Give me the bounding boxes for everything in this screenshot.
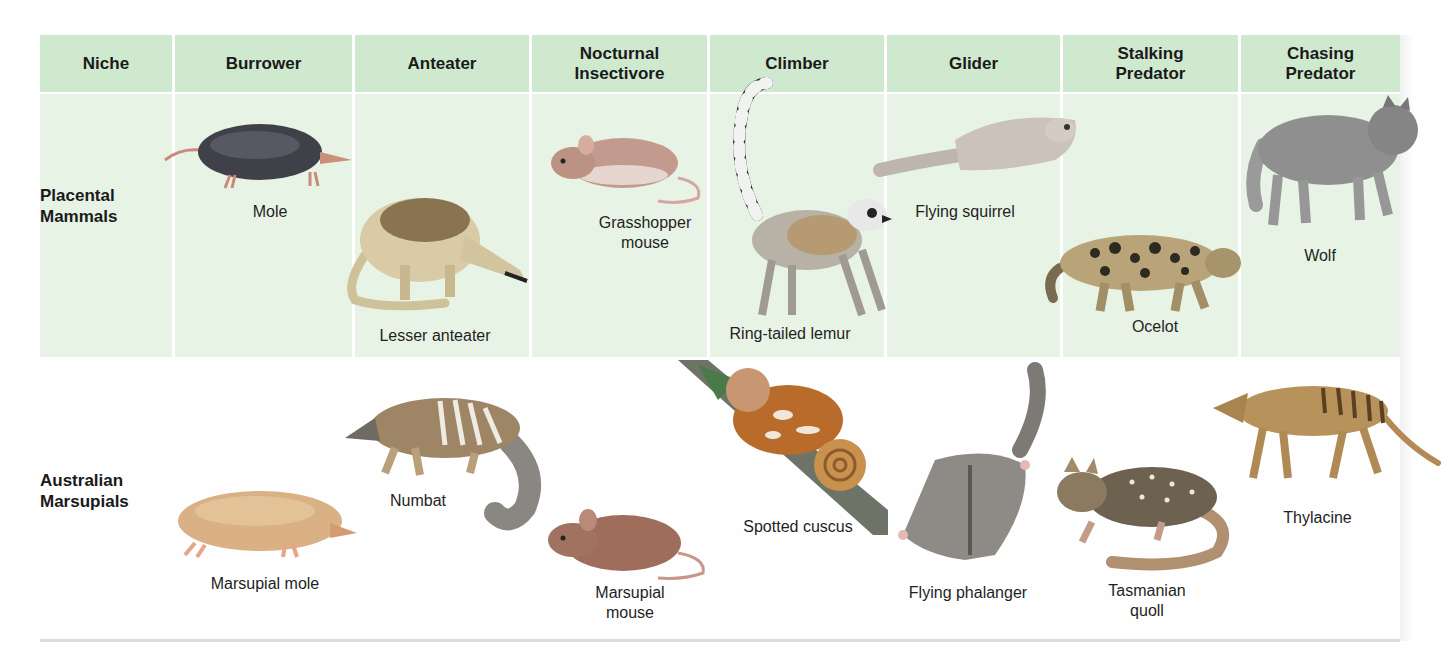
header-anteater: Anteater — [355, 35, 529, 92]
label-flying-phalanger: Flying phalanger — [898, 583, 1038, 603]
thylacine-illustration — [1203, 373, 1443, 483]
row-label-placental-text: Placental Mammals — [40, 185, 150, 227]
label-tasmanian-quoll: Tasmanian quoll — [1092, 581, 1202, 621]
label-wolf: Wolf — [1285, 246, 1355, 266]
header-burrower: Burrower — [175, 35, 352, 92]
label-ring-tailed-lemur: Ring-tailed lemur — [710, 324, 870, 344]
label-marsupial-mouse: Marsupial mouse — [585, 583, 675, 623]
mole-illustration — [160, 120, 360, 195]
label-mole: Mole — [230, 202, 310, 222]
label-flying-squirrel: Flying squirrel — [900, 202, 1030, 222]
label-numbat: Numbat — [390, 491, 446, 511]
row-label-marsupial-text: Australian Marsupials — [40, 470, 150, 512]
grasshopper-mouse-illustration — [538, 123, 708, 203]
convergent-evolution-table: Niche Burrower Anteater Nocturnal Insect… — [40, 35, 1400, 641]
label-spotted-cuscus: Spotted cuscus — [728, 517, 868, 537]
wolf-illustration — [1248, 95, 1423, 230]
spotted-cuscus-illustration — [678, 360, 888, 535]
header-glider: Glider — [887, 35, 1060, 92]
label-marsupial-mole: Marsupial mole — [190, 574, 340, 594]
row-label-marsupial: Australian Marsupials — [40, 470, 150, 512]
label-thylacine: Thylacine — [1270, 508, 1365, 528]
label-lesser-anteater: Lesser anteater — [370, 326, 500, 346]
flying-squirrel-illustration — [875, 100, 1080, 185]
label-ocelot: Ocelot — [1115, 317, 1195, 337]
ring-tailed-lemur-illustration — [712, 75, 892, 320]
flying-phalanger-illustration — [895, 365, 1055, 570]
ocelot-illustration — [1045, 223, 1245, 313]
bottom-rule — [40, 639, 1400, 642]
header-chasing-predator: Chasing Predator — [1241, 35, 1400, 92]
row-label-placental: Placental Mammals — [40, 185, 150, 227]
lesser-anteater-illustration — [345, 185, 535, 315]
label-grasshopper-mouse: Grasshopper mouse — [590, 213, 700, 253]
header-nocturnal-insectivore: Nocturnal Insectivore — [532, 35, 707, 92]
header-stalking-predator: Stalking Predator — [1063, 35, 1238, 92]
header-niche: Niche — [40, 35, 172, 92]
marsupial-mole-illustration — [175, 483, 360, 563]
